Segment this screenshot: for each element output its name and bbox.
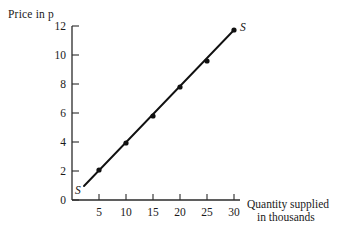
data-point-20 [177,84,182,89]
y-tick-label-12: 12 [55,20,67,32]
supply-curve-line [84,30,234,186]
supply-label-end: S [240,21,246,33]
y-axis-ticks [72,26,79,200]
data-point-10 [123,140,128,145]
data-point-30 [231,27,236,32]
y-axis-tick-labels: 0 2 4 6 8 10 12 [55,20,67,206]
data-point-25 [204,58,209,63]
x-axis-tick-labels: 5 10 15 20 25 30 [96,206,240,218]
x-tick-label-5: 5 [96,206,102,218]
data-point-5 [96,167,101,172]
supply-curve-figure: Price in p Quantity supplied in thousand… [0,0,346,240]
x-tick-label-20: 20 [174,206,186,218]
y-tick-label-2: 2 [60,165,66,177]
x-tick-label-15: 15 [147,206,159,218]
x-tick-label-10: 10 [120,206,132,218]
supply-label-start: S [75,184,81,196]
y-tick-label-0: 0 [60,194,66,206]
y-tick-label-6: 6 [60,107,66,119]
y-tick-label-4: 4 [60,136,66,148]
x-tick-label-25: 25 [201,206,213,218]
x-axis-ticks [99,194,234,200]
chart-plot-area: 0 2 4 6 8 10 12 5 10 15 20 25 30 [0,0,346,240]
x-tick-label-30: 30 [228,206,240,218]
y-tick-label-10: 10 [55,49,67,61]
y-tick-label-8: 8 [60,78,66,90]
data-point-15 [150,113,155,118]
